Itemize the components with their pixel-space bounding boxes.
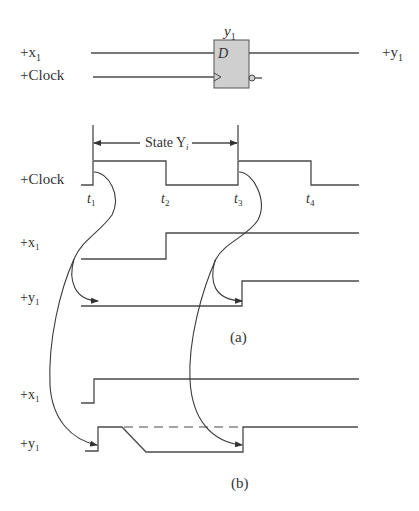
x1-waveform-a: +x1 [20, 233, 359, 259]
y1-a-label: +y1 [20, 290, 39, 307]
time-t1: t1 [87, 191, 95, 208]
x1-a-label: +x1 [20, 235, 39, 252]
t3-to-y1b-arrow [190, 172, 261, 445]
d-flip-flop-circuit: +x1 +Clock y1 D +y1 [20, 23, 403, 88]
y1-waveform-a: +y1 [20, 281, 359, 307]
clock-signal [81, 161, 359, 185]
caption-b: (b) [231, 475, 249, 492]
state-label: State Yi [145, 135, 189, 152]
state-span-indicator: State Yi [93, 125, 238, 160]
clock-waveform-label: +Clock [20, 171, 65, 187]
y1-waveform-b: +y1 [20, 427, 358, 453]
time-t4: t4 [306, 191, 315, 208]
flip-flop-name: y1 [222, 23, 236, 42]
circuit-y1-label: +y1 [382, 44, 403, 63]
x1-b-signal [81, 379, 359, 403]
circuit-x1-label: +x1 [20, 44, 41, 63]
x1-b-label: +x1 [20, 387, 39, 404]
x1-waveform-b: +x1 [20, 379, 359, 404]
x1-a-signal [81, 233, 359, 259]
t3-to-y1a-arrow [213, 260, 242, 301]
time-t2: t2 [161, 191, 169, 208]
d-input-label: D [217, 46, 228, 61]
circuit-clock-label: +Clock [20, 67, 65, 83]
inverted-output-bubble-icon [249, 75, 255, 81]
causality-arrows [50, 172, 261, 445]
caption-a: (a) [230, 329, 247, 346]
timing-diagram: +x1 +Clock y1 D +y1 State Yi +Clock t1 t… [0, 0, 419, 511]
time-t3: t3 [234, 191, 243, 208]
y1-b-label: +y1 [20, 436, 39, 453]
t1-to-y1a-arrow [72, 259, 98, 301]
clock-waveform: +Clock t1 t2 t3 t4 [20, 161, 359, 208]
t1-to-y1b-arrow [50, 172, 116, 445]
